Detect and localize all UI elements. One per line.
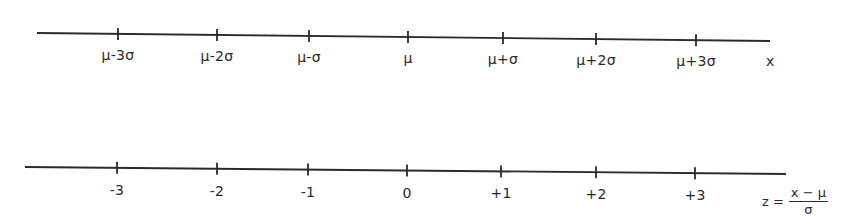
- x-axis-name: x: [766, 53, 774, 69]
- z-axis-line: [25, 167, 786, 174]
- z-axis-tick-label: +1: [490, 185, 511, 201]
- x-axis-tick-label: μ-3σ: [102, 47, 135, 63]
- z-axis-tick-label: -2: [210, 183, 225, 199]
- z-formula-fraction: x − μ σ: [789, 186, 828, 217]
- x-axis-tick-label: μ+2σ: [576, 52, 616, 68]
- axes-graphic: [0, 0, 863, 218]
- x-axis-line: [37, 33, 770, 41]
- z-formula-denominator: σ: [804, 202, 812, 217]
- x-axis-tick-label: μ-2σ: [201, 48, 234, 64]
- z-score-diagram: μ-3σμ-2σμ-σμμ+σμ+2σμ+3σ x -3-2-10+1+2+3 …: [0, 0, 863, 218]
- x-axis-tick-label: μ: [403, 50, 412, 66]
- z-axis-tick-label: 0: [402, 185, 411, 201]
- z-formula-numerator: x − μ: [789, 186, 828, 202]
- z-axis-tick-label: +2: [585, 186, 606, 202]
- z-axis-tick-label: -3: [110, 182, 125, 198]
- x-axis-tick-label: μ+σ: [488, 51, 518, 67]
- x-axis-tick-label: μ-σ: [297, 49, 321, 65]
- z-axis-tick-label: -1: [301, 184, 316, 200]
- z-axis-tick-label: +3: [684, 187, 705, 203]
- x-axis-tick-label: μ+3σ: [676, 53, 716, 69]
- z-formula: z = x − μ σ: [762, 186, 828, 217]
- z-formula-lhs: z =: [762, 195, 784, 209]
